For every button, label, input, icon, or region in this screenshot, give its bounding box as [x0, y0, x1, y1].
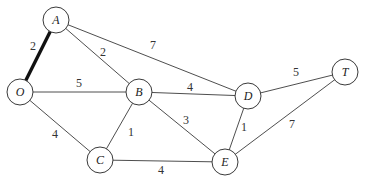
node-label: O	[16, 85, 25, 99]
edge-a-b	[56, 20, 139, 92]
edge-weight-a-o: 2	[30, 39, 36, 53]
edge-weight-b-c: 1	[128, 125, 134, 139]
node-label: D	[243, 89, 253, 103]
edge-a-d	[56, 20, 248, 96]
node-c: C	[87, 147, 113, 173]
edge-weight-d-t: 5	[293, 65, 299, 79]
edge-b-e	[139, 92, 225, 162]
edge-weight-o-b: 5	[76, 76, 82, 90]
edge-weight-b-e: 3	[183, 113, 189, 127]
edge-weight-a-d: 7	[150, 38, 156, 52]
edge-o-c	[20, 92, 100, 160]
edge-c-e	[100, 160, 225, 162]
node-a: A	[43, 7, 69, 33]
nodes-layer: AOBCDET	[7, 7, 358, 175]
edge-weight-o-c: 4	[52, 127, 58, 141]
node-o: O	[7, 79, 33, 105]
edges-layer	[20, 20, 345, 162]
node-d: D	[235, 83, 261, 109]
weighted-graph-diagram: 227544134157 AOBCDET	[0, 0, 369, 184]
edge-weight-a-b: 2	[100, 45, 106, 59]
node-label: E	[220, 155, 229, 169]
edge-weights-layer: 227544134157	[30, 38, 299, 177]
node-label: C	[96, 153, 105, 167]
edge-weight-c-e: 4	[158, 163, 164, 177]
edge-b-d	[139, 92, 248, 96]
node-label: B	[135, 85, 143, 99]
node-b: B	[126, 79, 152, 105]
node-e: E	[212, 149, 238, 175]
edge-weight-d-e: 1	[241, 120, 247, 134]
node-label: A	[51, 13, 60, 27]
node-t: T	[332, 59, 358, 85]
edge-weight-e-t: 7	[289, 117, 295, 131]
edge-weight-b-d: 4	[187, 80, 193, 94]
